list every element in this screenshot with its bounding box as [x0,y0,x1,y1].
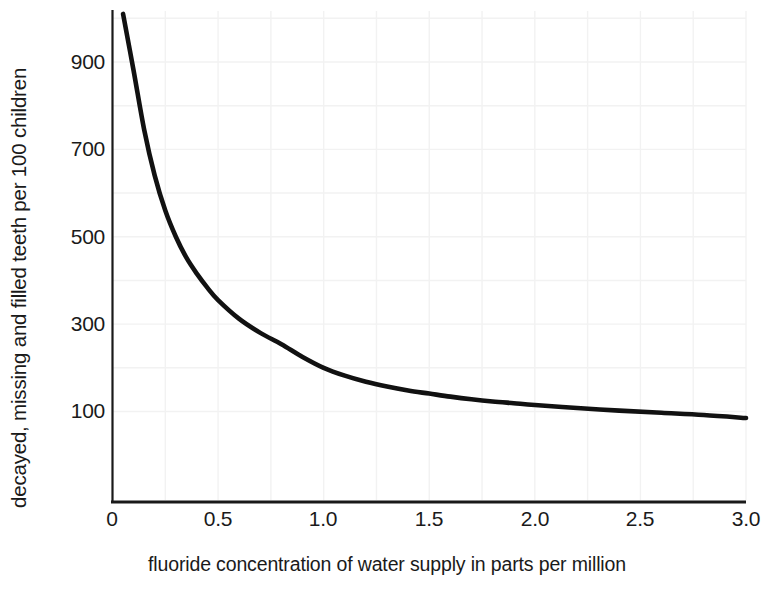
x-tick-label: 3.0 [711,508,774,529]
y-axis-title: decayed, missing and filled teeth per 10… [0,0,38,510]
x-tick-label: 0.5 [183,508,253,529]
x-axis-tick-labels: 0 0.5 1.0 1.5 2.0 2.5 3.0 [0,0,774,591]
x-tick-label: 1.5 [394,508,464,529]
x-tick-label: 1.0 [288,508,358,529]
x-tick-label: 2.5 [605,508,675,529]
x-tick-label: 2.0 [500,508,570,529]
chart-figure: 900 700 500 300 100 0 0.5 1.0 1.5 2.0 2.… [0,0,774,591]
y-axis-title-text: decayed, missing and filled teeth per 10… [9,68,30,510]
x-tick-label: 0 [77,508,147,529]
x-axis-title: fluoride concentration of water supply i… [0,553,774,576]
